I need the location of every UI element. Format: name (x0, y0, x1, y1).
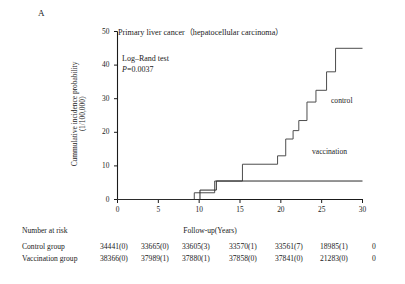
risk-table-cell: 38366(0) (100, 254, 128, 263)
risk-table-title: Number at risk (22, 226, 68, 235)
risk-table-cell: 33605(3) (182, 242, 210, 251)
risk-row-label-vaccination: Vaccination group (22, 254, 77, 263)
y-axis-tick-label: 0 (94, 195, 110, 204)
risk-table-cell: 34441(0) (100, 242, 128, 251)
x-axis-tick-label: 5 (150, 205, 166, 214)
risk-table-cell: 33665(0) (141, 242, 169, 251)
x-axis-tick-label: 20 (273, 205, 289, 214)
risk-table-cell: 37841(0) (275, 254, 303, 263)
risk-table-cell: 37858(0) (229, 254, 257, 263)
x-axis-tick-label: 10 (191, 205, 207, 214)
table-row: Control group 34441(0)33665(0)33605(3)33… (0, 242, 405, 254)
p-value-label: P=0.0037 (122, 65, 169, 76)
control-curve-label: control (331, 96, 353, 105)
series-line-vaccination (118, 181, 363, 199)
table-row: Vaccination group 38366(0)37989(1)37880(… (0, 254, 405, 266)
x-axis-tick-label: 30 (355, 205, 371, 214)
risk-table-cell: 21283(0) (320, 254, 348, 263)
x-axis-tick-label: 0 (110, 205, 126, 214)
vaccination-curve-label: vaccination (312, 147, 347, 156)
y-axis-tick-label: 50 (94, 27, 110, 36)
x-axis-caption: Follow-up(Years) (150, 226, 270, 235)
risk-table-cell: 0 (372, 254, 376, 263)
risk-table-cell: 37880(1) (182, 254, 210, 263)
p-value-number: =0.0037 (127, 65, 154, 74)
y-axis-tick-label: 40 (94, 60, 110, 69)
risk-table-cell: 33570(1) (229, 242, 257, 251)
risk-table-cell: 18985(1) (320, 242, 348, 251)
statistical-test-annotation: Log–Rand test P=0.0037 (122, 54, 169, 75)
y-axis-tick-label: 20 (94, 127, 110, 136)
y-axis-tick-label: 30 (94, 94, 110, 103)
figure-panel-a: A Cummulative incidence probability （1/1… (0, 0, 405, 284)
chart-title: Primary liver cancer（hepatocellular carc… (118, 25, 283, 37)
x-axis-tick-label: 15 (232, 205, 248, 214)
log-rank-test-label: Log–Rand test (122, 54, 169, 65)
risk-table-cell: 0 (372, 242, 376, 251)
risk-row-label-control: Control group (22, 242, 65, 251)
y-axis-tick-label: 10 (94, 161, 110, 170)
risk-table-cell: 33561(7) (275, 242, 303, 251)
x-axis-tick-label: 25 (314, 205, 330, 214)
risk-table-cell: 37989(1) (141, 254, 169, 263)
